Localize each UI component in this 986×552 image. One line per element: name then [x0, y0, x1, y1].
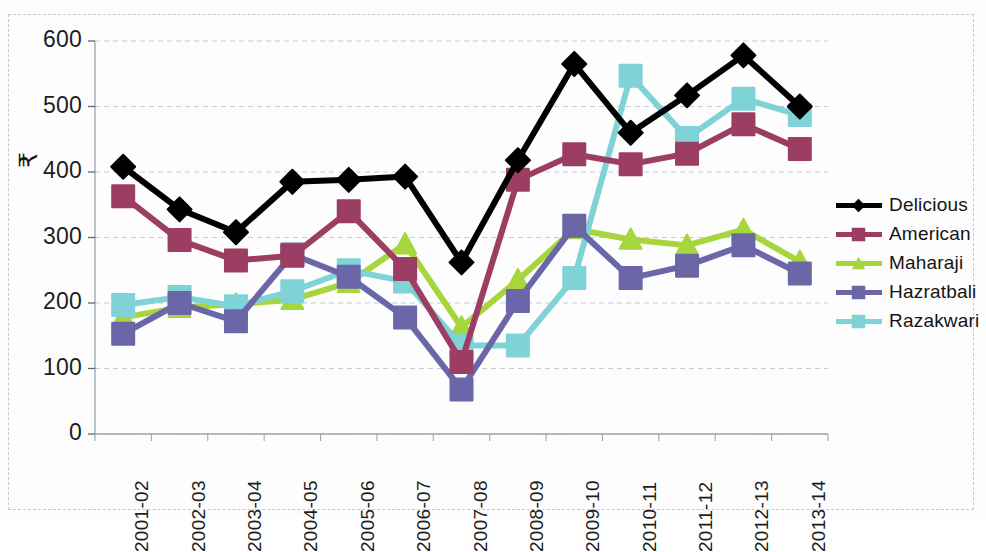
legend-label: American [889, 223, 971, 245]
legend-swatch-delicious-icon [836, 194, 882, 216]
legend: DeliciousAmericanMaharajiHazratbaliRazak… [836, 190, 980, 335]
legend-item-razakwari[interactable]: Razakwari [836, 306, 980, 335]
legend-swatch-maharaji-icon [836, 252, 882, 274]
legend-marker-triangle-icon [851, 256, 866, 271]
legend-label: Razakwari [889, 310, 980, 332]
legend-item-american[interactable]: American [836, 219, 980, 248]
legend-label: Hazratbali [889, 281, 977, 303]
legend-swatch-hazratbali-icon [836, 281, 882, 303]
series-layer [111, 43, 812, 400]
legend-swatch-razakwari-icon [836, 310, 882, 332]
legend-label: Maharaji [889, 252, 963, 274]
legend-swatch-american-icon [836, 223, 882, 245]
legend-label: Delicious [889, 194, 968, 216]
legend-marker-square-icon [851, 314, 866, 329]
legend-marker-square-icon [851, 227, 866, 242]
legend-item-delicious[interactable]: Delicious [836, 190, 980, 219]
legend-marker-diamond-icon [851, 198, 866, 213]
legend-marker-square-icon [851, 285, 866, 300]
legend-item-hazratbali[interactable]: Hazratbali [836, 277, 980, 306]
series-maharaji [112, 218, 811, 337]
legend-item-maharaji[interactable]: Maharaji [836, 248, 980, 277]
